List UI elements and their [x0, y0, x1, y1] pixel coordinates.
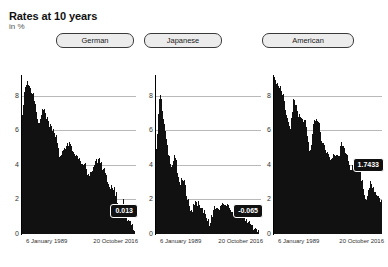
- x-axis-labels-japanese: 6 January 1989 20 October 2016: [156, 238, 263, 250]
- y-tick-label-0: 0: [260, 230, 271, 237]
- y-tick-label-4: 4: [142, 161, 153, 168]
- chart-panel-american: 02468 6 January 1989 20 October 2016 1.7…: [258, 60, 386, 260]
- y-tick-label-4: 4: [260, 161, 271, 168]
- y-tick-label-6: 6: [8, 126, 19, 133]
- x-label-start: 6 January 1989: [278, 238, 319, 244]
- plot-area-american: [274, 75, 382, 234]
- y-tick-label-8: 8: [142, 92, 153, 99]
- x-label-end: 20 October 2016: [339, 238, 384, 244]
- chart-panel-german: 02468 6 January 1989 20 October 2016 0.0…: [6, 60, 140, 260]
- x-label-start: 6 January 1989: [160, 238, 201, 244]
- y-tick-label-0: 0: [142, 230, 153, 237]
- last-value-badge-american: 1.7433: [353, 158, 384, 172]
- y-tick-label-4: 4: [8, 161, 19, 168]
- x-label-start: 6 January 1989: [26, 238, 67, 244]
- chart-page: Rates at 10 years in % German Japanese A…: [0, 0, 388, 267]
- x-axis-labels-german: 6 January 1989 20 October 2016: [22, 238, 138, 250]
- chart-panels: 02468 6 January 1989 20 October 2016 0.0…: [0, 60, 388, 267]
- page-title: Rates at 10 years: [9, 10, 97, 22]
- x-axis-labels-american: 6 January 1989 20 October 2016: [274, 238, 384, 250]
- y-tick-label-2: 2: [142, 195, 153, 202]
- y-tick-label-6: 6: [142, 126, 153, 133]
- y-tick-label-6: 6: [260, 126, 271, 133]
- tab-american[interactable]: American: [262, 33, 354, 48]
- area-series-american: [274, 75, 382, 234]
- y-tick-label-8: 8: [260, 92, 271, 99]
- x-label-end: 20 October 2016: [218, 238, 263, 244]
- last-value-badge-german: 0.013: [110, 204, 138, 218]
- chart-panel-japanese: 02468 6 January 1989 20 October 2016 -0.…: [140, 60, 265, 260]
- tab-bar: German Japanese American: [0, 33, 388, 51]
- page-subtitle: in %: [9, 22, 25, 31]
- tab-german[interactable]: German: [56, 33, 134, 48]
- y-tick-label-8: 8: [8, 92, 19, 99]
- x-label-end: 20 October 2016: [93, 238, 138, 244]
- tab-japanese[interactable]: Japanese: [144, 33, 222, 48]
- y-tick-label-0: 0: [8, 230, 19, 237]
- y-tick-label-2: 2: [8, 195, 19, 202]
- y-tick-label-2: 2: [260, 195, 271, 202]
